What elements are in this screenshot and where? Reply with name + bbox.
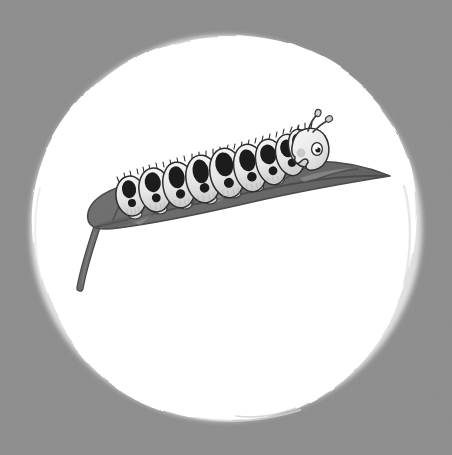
illustration-canvas: Spotted caterpillar crawling on a leaf A… [0,0,452,455]
white-painted-circle [30,35,422,421]
caterpillar-eye [312,143,323,156]
caterpillar-illustration-svg: Spotted caterpillar crawling on a leaf A… [0,0,452,455]
caterpillar-cheek-blush [297,149,306,158]
